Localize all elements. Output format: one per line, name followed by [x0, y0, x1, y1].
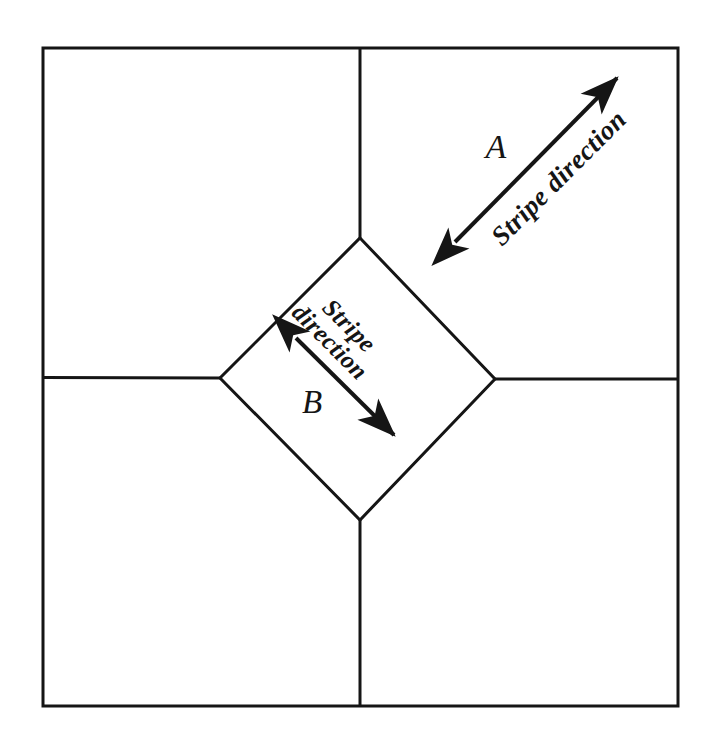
figure-canvas: A Stripe direction B Stripe direction — [0, 0, 714, 754]
region-label-a: A — [484, 128, 507, 165]
tiling-diagram: A Stripe direction B Stripe direction — [0, 0, 714, 754]
region-label-b: B — [302, 384, 322, 420]
joint-line-left — [43, 378, 220, 379]
